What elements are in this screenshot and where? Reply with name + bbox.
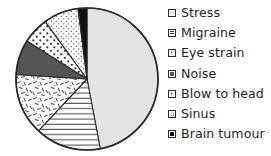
legend-label-eye-strain: Eye strain <box>181 43 245 63</box>
solid-black-swatch-icon <box>168 130 176 138</box>
legend-label-noise: Noise <box>181 64 216 84</box>
scattered-dashes-swatch-icon <box>168 49 176 57</box>
coarse-dots-swatch-icon <box>168 90 176 98</box>
legend-item-eye-strain: Eye strain <box>168 43 271 63</box>
chart-legend: Stress Migraine Eye strain Noise Blow to <box>168 3 271 153</box>
horizontal-lines-swatch-icon <box>168 29 176 37</box>
pie-chart-svg <box>0 0 168 156</box>
legend-item-brain-tumour: Brain tumour <box>168 124 271 144</box>
legend-label-blow-to-head: Blow to head <box>181 84 264 104</box>
legend-item-blow-to-head: Blow to head <box>168 84 271 104</box>
pie-chart-figure: Stress Migraine Eye strain Noise Blow to <box>0 0 271 156</box>
pie-slice-stress <box>87 8 158 149</box>
legend-label-migraine: Migraine <box>181 23 236 43</box>
fine-dots-swatch-icon <box>168 110 176 118</box>
legend-label-stress: Stress <box>181 3 220 23</box>
solid-light-gray-swatch-icon <box>168 9 176 17</box>
legend-label-brain-tumour: Brain tumour <box>181 124 265 144</box>
legend-item-noise: Noise <box>168 64 271 84</box>
legend-item-migraine: Migraine <box>168 23 271 43</box>
solid-dark-gray-swatch-icon <box>168 70 176 78</box>
legend-item-stress: Stress <box>168 3 271 23</box>
legend-item-sinus: Sinus <box>168 104 271 124</box>
legend-label-sinus: Sinus <box>181 104 215 124</box>
pie-chart-plot-area <box>0 0 168 156</box>
